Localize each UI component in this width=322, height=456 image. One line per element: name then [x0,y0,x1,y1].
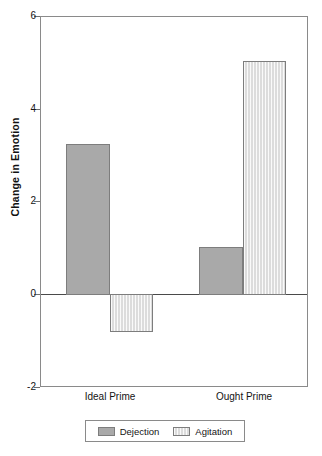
x-tick-label-ought-prime: Ought Prime [196,391,292,402]
legend-item-agitation: Agitation [173,426,232,437]
legend-label-agitation: Agitation [195,426,232,437]
bar-ought-prime-agitation [243,61,286,295]
y-axis-title: Change in Emotion [9,102,23,232]
legend: Dejection Agitation [85,420,245,442]
legend-item-dejection: Dejection [98,426,160,437]
legend-swatch-agitation-icon [173,427,190,436]
bar-ideal-prime-dejection [66,144,110,295]
x-tick-label-ideal-prime: Ideal Prime [62,391,158,402]
y-tick-label-neg2: -2 [10,382,36,392]
bar-ought-prime-dejection [199,247,243,295]
legend-swatch-dejection-icon [98,427,115,436]
bar-ideal-prime-agitation [110,294,153,332]
y-tick-label-4: 4 [10,104,36,114]
plot-area [41,17,307,386]
y-tick-label-2: 2 [10,196,36,206]
plot-frame [40,16,308,387]
bar-chart: Change in Emotion 6 4 2 0 -2 Ideal Prime… [0,0,322,456]
legend-label-dejection: Dejection [120,426,160,437]
y-tick-label-6: 6 [10,11,36,21]
y-tick-label-0: 0 [10,289,36,299]
